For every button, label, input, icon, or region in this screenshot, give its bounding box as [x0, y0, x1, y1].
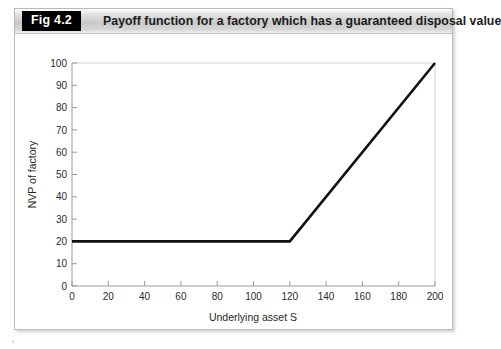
x-tick-label: 180	[390, 291, 407, 302]
x-axis-title: Underlying asset S	[209, 311, 297, 323]
y-tick-label: 90	[56, 80, 68, 91]
y-tick-label: 20	[56, 236, 68, 247]
x-axis-ticks	[72, 281, 435, 286]
plot-frame	[72, 63, 435, 286]
figure-header: Fig 4.2 Payoff function for a factory wh…	[15, 9, 452, 34]
x-tick-label: 140	[318, 291, 335, 302]
y-tick-label: 70	[56, 125, 68, 136]
x-tick-label: 200	[427, 291, 444, 302]
y-tick-label: 60	[56, 147, 68, 158]
y-tick-label: 30	[56, 214, 68, 225]
y-tick-label: 80	[56, 102, 68, 113]
y-axis-ticks	[72, 63, 77, 286]
chart-area: 0 10 20 30 40 50 60 70 80 90 100	[15, 34, 452, 329]
x-tick-label: 160	[354, 291, 371, 302]
y-tick-label: 0	[61, 281, 67, 292]
figure-card: Fig 4.2 Payoff function for a factory wh…	[14, 8, 453, 330]
figure-caption: Payoff function for a factory which has …	[103, 14, 501, 28]
x-tick-label: 0	[69, 291, 75, 302]
x-tick-label: 80	[212, 291, 224, 302]
payoff-series-line	[72, 63, 435, 241]
x-tick-label: 20	[103, 291, 115, 302]
x-tick-label: 60	[175, 291, 187, 302]
y-axis-tick-labels: 0 10 20 30 40 50 60 70 80 90 100	[50, 58, 67, 292]
x-tick-label: 40	[139, 291, 151, 302]
x-tick-label: 120	[281, 291, 298, 302]
y-tick-label: 10	[56, 258, 68, 269]
x-axis-tick-labels: 0 20 40 60 80 100 120 140 160 180 200	[69, 291, 444, 302]
scan-artifact-mark: ɪ	[12, 338, 15, 344]
y-axis-title: NVP of factory	[26, 140, 38, 208]
x-tick-label: 100	[245, 291, 262, 302]
y-tick-label: 100	[50, 58, 67, 69]
payoff-line-chart: 0 10 20 30 40 50 60 70 80 90 100	[15, 34, 452, 330]
y-tick-label: 40	[56, 191, 68, 202]
figure-number-badge: Fig 4.2	[22, 11, 81, 31]
y-tick-label: 50	[56, 169, 68, 180]
